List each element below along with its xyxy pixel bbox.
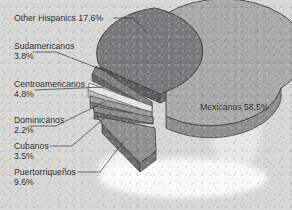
label-sudamericanos: Sudamericanos 3.8% (14, 41, 74, 61)
label-cubanos-text: Cubanos (14, 141, 49, 151)
label-dominicanos-pct: 2.2% (14, 125, 64, 135)
chart-canvas: Other Hispanics 17.6% Sudamericanos 3.8%… (0, 0, 292, 210)
label-dominicanos: Dominicanos 2.2% (14, 115, 64, 135)
label-puertorriquenos-pct: 9.6% (14, 177, 76, 187)
label-mexicanos: Mexicanos 58.5% (200, 102, 269, 112)
label-other-hispanics: Other Hispanics 17.6% (14, 13, 103, 23)
label-cubanos: Cubanos 3.5% (14, 141, 49, 161)
label-puertorriquenos-text: Puertorriqueños (14, 167, 76, 177)
label-centroamericanos-pct: 4.8% (14, 89, 85, 99)
label-centroamericanos-text: Centroamericanos (14, 79, 85, 89)
label-other-hispanics-text: Other Hispanics 17.6% (14, 13, 103, 23)
label-sudamericanos-pct: 3.8% (14, 51, 74, 61)
label-cubanos-pct: 3.5% (14, 151, 49, 161)
label-mexicanos-text: Mexicanos 58.5% (200, 102, 269, 112)
label-centroamericanos: Centroamericanos 4.8% (14, 79, 85, 99)
label-puertorriquenos: Puertorriqueños 9.6% (14, 167, 76, 187)
label-sudamericanos-text: Sudamericanos (14, 41, 74, 51)
label-dominicanos-text: Dominicanos (14, 115, 64, 125)
